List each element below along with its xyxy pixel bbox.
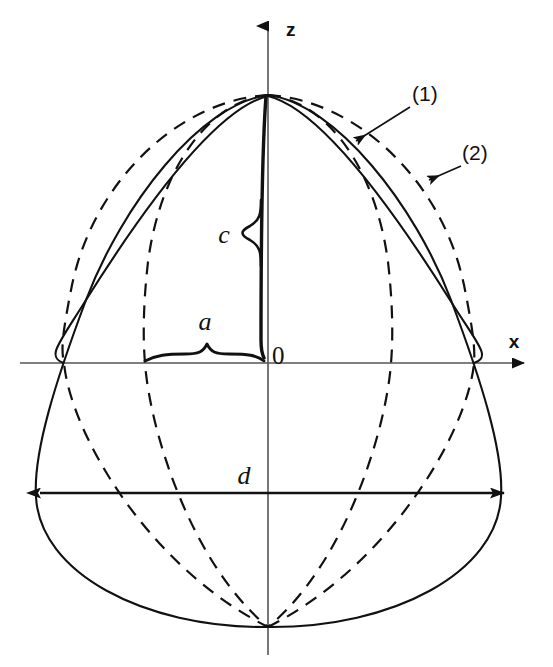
callout-1-leader — [356, 107, 410, 141]
axes-group: z x — [20, 19, 524, 655]
origin-group: 0 — [272, 342, 285, 369]
generatrix-left-path — [55, 96, 268, 363]
dimension-a-label: a — [199, 307, 212, 336]
callout-2-label: (2) — [462, 141, 488, 164]
z-axis-label: z — [286, 19, 296, 40]
dimension-d-label: d — [238, 461, 252, 490]
dimension-c-stem — [261, 96, 266, 358]
dimension-a-group: a — [145, 307, 264, 361]
meridian-2-left-path — [63, 95, 268, 627]
egg-geometry-figure: z x c a — [0, 0, 553, 667]
dimension-c-group: c — [218, 96, 266, 358]
callout-2-group: (2) — [429, 141, 488, 180]
dimension-a-brace — [145, 344, 264, 361]
generatrix-right-path — [268, 96, 482, 363]
figure-canvas: z x c a — [0, 0, 553, 667]
callout-2-leader — [429, 166, 461, 180]
meridian-2-right-path — [268, 95, 474, 627]
origin-label: 0 — [272, 342, 285, 369]
x-axis-label: x — [509, 331, 520, 352]
callout-1-group: (1) — [356, 82, 438, 141]
callout-1-label: (1) — [412, 82, 438, 105]
dimension-c-brace — [243, 200, 262, 266]
dimension-c-label: c — [218, 220, 230, 249]
